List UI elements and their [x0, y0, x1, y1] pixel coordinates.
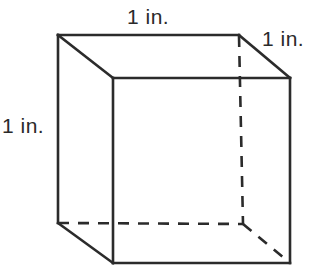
- dimension-label-right: 1 in.: [262, 28, 304, 49]
- dimension-label-top: 1 in.: [127, 6, 169, 27]
- cube-figure: 1 in. 1 in. 1 in.: [0, 0, 312, 267]
- dimension-label-left: 1 in.: [2, 115, 44, 136]
